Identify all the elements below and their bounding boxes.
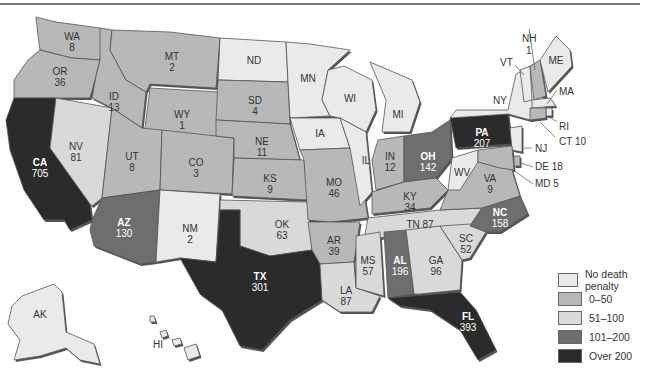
state-value-pa: 207: [474, 138, 491, 149]
state-value-sd: 4: [252, 106, 258, 117]
state-label-il: IL: [362, 155, 371, 166]
state-value-nv: 81: [70, 152, 82, 163]
legend: No death penalty 0–50 51–100 101–200 Ove…: [558, 270, 650, 365]
state-value-tx: 301: [252, 282, 269, 293]
state-label-ak: AK: [33, 309, 47, 320]
state-label-va: VA: [484, 173, 497, 184]
state-value-fl: 393: [460, 322, 477, 333]
state-ri[interactable]: [546, 108, 552, 116]
de-leader-line: [520, 163, 533, 167]
state-label-sc: SC: [459, 233, 473, 244]
state-value-ms: 57: [362, 266, 374, 277]
legend-label: 51–100: [589, 312, 624, 324]
state-value-wy: 1: [179, 120, 185, 131]
state-label-ne: NE: [255, 136, 269, 147]
state-label-mo: MO: [326, 177, 342, 188]
state-label-ga: GA: [429, 255, 444, 266]
state-value-ar: 39: [328, 246, 340, 257]
state-value-nc: 158: [492, 218, 509, 229]
state-value-nm: 2: [187, 234, 193, 245]
legend-item-101-200: 101–200: [558, 327, 650, 346]
state-value-ne: 11: [257, 147, 268, 158]
state-label-nc: NC: [493, 207, 507, 218]
state-label-or: OR: [53, 66, 68, 77]
state-value-ok: 63: [276, 230, 288, 241]
nj-external-label: NJ: [535, 143, 547, 154]
state-label-ok: OK: [275, 219, 290, 230]
nh-external-label: NH: [522, 33, 536, 44]
state-label-ar: AR: [327, 235, 341, 246]
de-external-label: DE 18: [535, 161, 563, 172]
ri-external-label: RI: [559, 121, 569, 132]
legend-label: No death penalty: [585, 268, 650, 292]
state-label-wi: WI: [344, 93, 356, 104]
state-value-ca: 705: [32, 168, 49, 179]
state-label-oh: OH: [421, 151, 436, 162]
state-label-ny: NY: [493, 95, 507, 106]
state-label-al: AL: [393, 255, 406, 266]
nh-external-value: 1: [526, 45, 532, 56]
state-fl[interactable]: [388, 292, 496, 360]
state-label-ks: KS: [263, 173, 277, 184]
legend-label: Over 200: [589, 350, 632, 362]
us-map: WA8OR36CA705NV81ID13MT2WY1UT8CO3AZ130NM2…: [0, 0, 650, 369]
state-label-ut: UT: [125, 151, 138, 162]
state-label-mt: MT: [165, 51, 179, 62]
state-label-hi: HI: [153, 339, 163, 350]
state-label-nv: NV: [69, 141, 83, 152]
legend-swatch: [558, 292, 582, 306]
state-label-in: IN: [385, 151, 395, 162]
state-value-id: 13: [108, 102, 120, 113]
state-value-ks: 9: [267, 184, 273, 195]
state-value-al: 196: [392, 266, 409, 277]
state-value-ga: 96: [430, 266, 442, 277]
state-label-pa: PA: [475, 127, 488, 138]
state-label-ky: KY: [403, 191, 417, 202]
state-label-la: LA: [340, 285, 353, 296]
state-label-sd: SD: [248, 95, 262, 106]
state-value-or: 36: [54, 77, 66, 88]
state-label-me: ME: [549, 55, 564, 66]
state-de[interactable]: [514, 156, 520, 166]
vt-external-label: VT: [500, 57, 513, 68]
state-ct[interactable]: [530, 108, 546, 120]
legend-swatch: [558, 330, 582, 344]
state-value-la: 87: [340, 296, 352, 307]
legend-item-51-100: 51–100: [558, 308, 650, 327]
state-label-nd: ND: [247, 55, 261, 66]
state-label-wa: WA: [64, 31, 80, 42]
state-value-az: 130: [116, 228, 133, 239]
ct-external-label: CT 10: [559, 136, 586, 147]
state-label-wy: WY: [174, 109, 190, 120]
state-label-tx: TX: [254, 271, 267, 282]
state-value-oh: 142: [420, 162, 437, 173]
state-label-mn: MN: [300, 73, 316, 84]
state-label-az: AZ: [117, 217, 130, 228]
state-mi[interactable]: [370, 62, 420, 132]
state-value-in: 12: [384, 162, 396, 173]
state-hi[interactable]: [150, 316, 200, 360]
ma-external-label: MA: [559, 86, 574, 97]
state-label-mi: MI: [392, 109, 403, 120]
legend-label: 101–200: [589, 331, 630, 343]
state-value-mo: 46: [328, 188, 340, 199]
state-ak[interactable]: [8, 284, 100, 364]
legend-swatch: [558, 349, 582, 363]
state-label-id: ID: [109, 91, 119, 102]
legend-item-none: No death penalty: [558, 270, 650, 289]
legend-item-over-200: Over 200: [558, 346, 650, 365]
md-external-label: MD 5: [535, 178, 559, 189]
state-value-co: 3: [193, 168, 199, 179]
state-label-ms: MS: [361, 255, 376, 266]
state-value-mt: 2: [169, 62, 175, 73]
legend-item-0-50: 0–50: [558, 289, 650, 308]
state-value-va: 9: [487, 184, 493, 195]
state-label-tn: TN 87: [406, 219, 434, 230]
state-label-ia: IA: [315, 128, 325, 139]
legend-swatch: [558, 273, 578, 287]
state-value-ut: 8: [129, 162, 135, 173]
state-ma[interactable]: [532, 98, 556, 108]
state-value-wa: 8: [69, 42, 75, 53]
state-value-ky: 34: [404, 202, 416, 213]
legend-label: 0–50: [589, 293, 612, 305]
